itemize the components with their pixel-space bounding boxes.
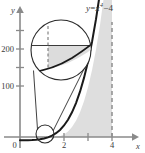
y-axis-label: y	[10, 5, 15, 15]
magnifier-source-circle	[36, 125, 54, 143]
y-axis-arrowhead	[16, 6, 24, 13]
x-axis-label: x	[135, 141, 140, 151]
figure-canvas: 200 100 0 2 4 x y	[0, 0, 145, 153]
curve-equation-label: y=x4−4	[86, 1, 113, 13]
origin-label: 0	[12, 140, 16, 150]
x-axis-arrowhead	[132, 133, 139, 141]
x-label-2: 2	[62, 140, 66, 150]
math-figure: 200 100 0 2 4 x y y=x4−4	[0, 0, 145, 153]
y-label-200: 200	[1, 44, 14, 54]
magnifier-connector-left	[34, 71, 38, 130]
equation-constant: 4	[108, 3, 113, 13]
x-label-4: 4	[110, 140, 115, 150]
y-label-100: 100	[1, 81, 14, 91]
